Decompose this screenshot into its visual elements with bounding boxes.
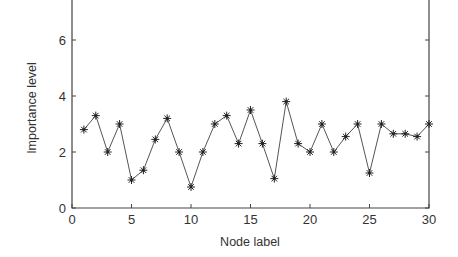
asterisk-marker <box>258 140 266 148</box>
asterisk-marker <box>413 133 421 141</box>
asterisk-marker <box>211 120 219 128</box>
asterisk-marker <box>151 135 159 143</box>
x-tick-label: 20 <box>303 212 317 227</box>
x-tick-label: 30 <box>422 212 436 227</box>
asterisk-marker <box>366 169 374 177</box>
y-tick-label: 0 <box>59 201 66 216</box>
asterisk-marker <box>247 106 255 114</box>
asterisk-marker <box>235 140 243 148</box>
asterisk-marker <box>270 175 278 183</box>
asterisk-marker <box>116 120 124 128</box>
asterisk-marker <box>354 120 362 128</box>
asterisk-marker <box>294 140 302 148</box>
x-tick-label: 0 <box>68 212 75 227</box>
data-series <box>80 98 433 191</box>
asterisk-marker <box>342 133 350 141</box>
asterisk-marker <box>377 120 385 128</box>
asterisk-marker <box>282 98 290 106</box>
line-chart: 0510152025300246 Node label Importance l… <box>0 0 458 257</box>
x-axis-label: Node label <box>220 235 280 249</box>
axis-frame <box>72 0 429 208</box>
asterisk-marker <box>199 148 207 156</box>
asterisk-marker <box>389 130 397 138</box>
x-tick-label: 10 <box>184 212 198 227</box>
x-tick-label: 25 <box>362 212 376 227</box>
asterisk-marker <box>223 112 231 120</box>
asterisk-marker <box>187 183 195 191</box>
chart-axes: 0510152025300246 <box>59 0 436 227</box>
asterisk-marker <box>175 148 183 156</box>
asterisk-marker <box>306 148 314 156</box>
asterisk-marker <box>401 130 409 138</box>
y-axis-label: Importance level <box>25 62 39 154</box>
asterisk-marker <box>92 112 100 120</box>
asterisk-marker <box>128 176 136 184</box>
asterisk-marker <box>330 148 338 156</box>
y-tick-label: 6 <box>59 33 66 48</box>
asterisk-marker <box>163 114 171 122</box>
y-tick-label: 4 <box>59 89 66 104</box>
y-tick-label: 2 <box>59 145 66 160</box>
x-tick-label: 5 <box>128 212 135 227</box>
asterisk-marker <box>318 120 326 128</box>
series-line <box>84 102 429 187</box>
asterisk-marker <box>104 148 112 156</box>
asterisk-marker <box>425 120 433 128</box>
x-tick-label: 15 <box>243 212 257 227</box>
